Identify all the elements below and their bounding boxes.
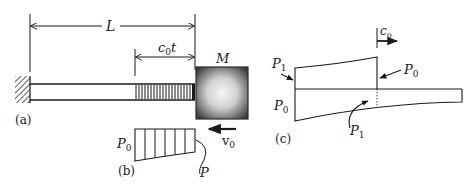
panel-c-caption: (c) <box>275 132 291 146</box>
p0-left-label: P0 <box>273 98 289 115</box>
p1-bottom-label: P1 <box>349 123 364 140</box>
wave-front-label: c0t <box>158 40 177 57</box>
p0-right-label: P0 <box>403 62 419 79</box>
panel-b: P0 P (b) <box>116 129 209 180</box>
compressed-region <box>135 84 195 100</box>
impact-diagram: L c0t <box>0 0 475 187</box>
mass-label: M <box>215 51 230 66</box>
p0-right-arrow <box>380 70 401 78</box>
panel-a: L c0t <box>15 14 248 150</box>
fixed-wall <box>15 76 30 103</box>
length-label: L <box>105 18 115 34</box>
p-label: P <box>199 165 209 180</box>
p0-label: P0 <box>116 136 132 153</box>
velocity-label: v0 <box>221 133 235 150</box>
incident-wave-profile <box>295 89 462 121</box>
panel-c: c0 P1 P0 P0 P1 (c) <box>271 24 462 146</box>
wave-speed-label: c0 <box>380 24 392 40</box>
reflected-wave-profile <box>295 57 377 89</box>
impacting-mass <box>196 67 248 119</box>
p1-top-label: P1 <box>271 56 286 73</box>
p1-top-arrow <box>281 74 293 80</box>
panel-a-caption: (a) <box>15 113 32 127</box>
pressure-profile-divisions <box>145 129 185 160</box>
panel-b-caption: (b) <box>118 164 135 178</box>
